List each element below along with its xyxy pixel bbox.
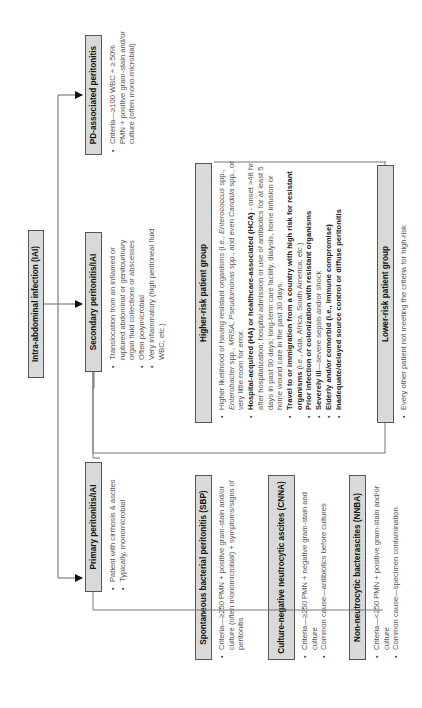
box-cnna: Culture-negative neutrocytic ascites (CN…: [268, 475, 295, 660]
box-higher-risk: Higher-risk patient group: [195, 163, 212, 423]
bullet: Very inflammatory (high peritoneal fluid…: [147, 228, 166, 360]
box-pd-peritonitis: PD-associated peritonitis: [85, 35, 102, 155]
pd-bullets: Criteria—≥100 WBC + ≥ 50% PMN + positive…: [108, 30, 137, 152]
bullet: Common cause—specimen contamination: [391, 473, 401, 650]
bullet: Patient with cirrhosis & ascites: [108, 460, 118, 582]
bullet: Criteria—≥250 PMN + positive gram-stain …: [217, 473, 246, 650]
bullet: Common cause—antibiotics before cultures: [319, 473, 329, 650]
box-nnba: Non-neutrocytic bacterascites (NNBA): [349, 475, 366, 660]
bullet: Higher likelihood of having resistant or…: [217, 158, 246, 410]
diagram-canvas: Intra-abdominal infection (IAI) Primary …: [0, 0, 422, 708]
bullet: Often polymicrobial: [137, 228, 147, 360]
box-lower-risk: Lower-risk patient group: [377, 165, 394, 423]
box-sbp: Spontaneous bacterial peritonitis (SBP): [195, 475, 212, 660]
bullet: Inadequate/delayed source control or dif…: [334, 158, 344, 410]
bullet: Typically, monomicrobial: [118, 460, 128, 582]
bullet: Every other patient not meeting the crit…: [399, 158, 409, 410]
bullet: Hospital-acquired (HA) or healthcare-ass…: [246, 158, 285, 410]
lower-risk-bullets: Every other patient not meeting the crit…: [399, 158, 409, 418]
bullet: Criteria—≥250 PMN + negative gram-stain …: [300, 473, 319, 650]
bullet: Criteria—≥100 WBC + ≥ 50% PMN + positive…: [108, 30, 137, 144]
sbp-bullets: Criteria—≥250 PMN + positive gram-stain …: [217, 473, 246, 658]
higher-risk-bullets: Higher likelihood of having resistant or…: [217, 158, 343, 418]
bullet: Severely ill—severe sepsis and/or shock: [314, 158, 324, 410]
bullet: Prior infection or colonization with res…: [304, 158, 314, 410]
bullet: Travel to or immigration from a country …: [285, 158, 304, 410]
primary-bullets: Patient with cirrhosis & ascites Typical…: [108, 460, 127, 590]
bullet: Criteria—<250 PMN + positive gram-stain …: [372, 473, 391, 650]
root-box-iai: Intra-abdominal infection (IAI): [28, 230, 44, 378]
bullet: Elderly and/or comorbid (i.e., immune co…: [324, 158, 334, 410]
bullet: Translocation from an inflamed or ruptur…: [108, 228, 137, 360]
box-secondary-peritonitis: Secondary peritonitis/IAI: [85, 232, 102, 372]
box-primary-peritonitis: Primary peritonitis/IAI: [85, 462, 102, 592]
nnba-bullets: Criteria—<250 PMN + positive gram-stain …: [372, 473, 401, 658]
cnna-bullets: Criteria—≥250 PMN + negative gram-stain …: [300, 473, 329, 658]
secondary-bullets: Translocation from an inflamed or ruptur…: [108, 228, 166, 368]
